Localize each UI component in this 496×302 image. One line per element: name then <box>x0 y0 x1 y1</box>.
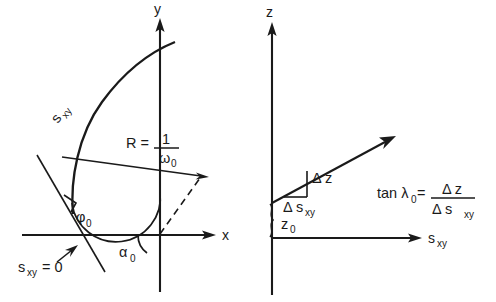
z-axis <box>267 22 276 295</box>
start-point-value: = 0 <box>42 259 63 275</box>
radius-numerator: 1 <box>162 131 170 147</box>
slope-formula: tan λ 0 = Δ z Δ s xy <box>377 181 475 220</box>
z0-main: z <box>281 216 288 232</box>
s-axis-label-subscript: xy <box>437 238 447 249</box>
x-axis-label: x <box>222 227 229 243</box>
radius-line <box>62 157 209 180</box>
arc-length-label: s xy <box>47 101 73 127</box>
radius-label-group: R = 1 ω 0 <box>126 131 179 169</box>
formula-equals: = <box>417 185 425 201</box>
technical-diagram-svg: y x <box>0 0 496 302</box>
radius-denominator-subscript: 0 <box>171 158 177 169</box>
radius-lead-label: R = <box>126 135 149 151</box>
start-point-subscript: xy <box>27 267 37 278</box>
phi-subscript: 0 <box>86 218 92 229</box>
y-axis-label: y <box>154 1 161 17</box>
left-panel-group: y x <box>18 1 229 292</box>
alpha-label: α 0 <box>119 244 136 264</box>
alpha-symbol: α <box>119 244 127 260</box>
delta-s-subscript: xy <box>305 207 315 218</box>
z-axis-label: z <box>266 4 273 20</box>
formula-denominator: Δ s <box>432 201 452 217</box>
z0-label: z 0 <box>281 216 296 235</box>
formula-denominator-subscript: xy <box>464 209 474 220</box>
x-axis <box>22 230 216 239</box>
delta-s-main: Δ s <box>283 199 303 215</box>
formula-lead: tan λ <box>377 185 409 201</box>
alpha-angle-arc <box>138 235 147 253</box>
z0-subscript: 0 <box>290 224 296 235</box>
figure-root: y x <box>0 0 496 302</box>
alpha-subscript: 0 <box>130 253 136 264</box>
phi-symbol: φ <box>76 209 85 225</box>
dashed-chord <box>160 178 200 234</box>
delta-z-label: Δ z <box>312 170 332 186</box>
s-axis-label: s xy <box>428 230 447 249</box>
start-point-label: s xy = 0 <box>18 259 63 278</box>
right-panel-group: z s xy Δ z <box>266 4 475 295</box>
start-point-main: s <box>18 259 25 275</box>
radius-denominator: ω <box>159 150 170 166</box>
slope-triangle <box>284 171 307 197</box>
formula-numerator: Δ z <box>442 181 462 197</box>
s-axis-label-main: s <box>428 230 435 246</box>
